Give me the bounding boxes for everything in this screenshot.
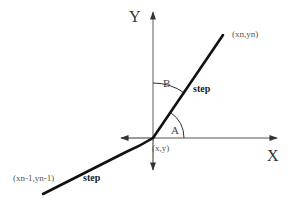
next-point-label: (xn,yn) [232,29,258,39]
angle-a-label: A [171,124,179,136]
y-axis-label: Y [129,8,141,25]
x-axis-label: X [267,147,279,164]
lower-step-line [43,138,153,194]
lower-step-label: step [83,172,101,183]
previous-point-label: (xn-1,yn-1) [13,173,54,183]
origin-point-label: (x,y) [152,143,169,153]
upper-step-label: step [193,83,211,94]
step-angle-diagram: Y X (xn,yn) (x,y) (xn-1,yn-1) B A step s… [0,0,293,206]
angle-b-label: B [163,77,170,89]
